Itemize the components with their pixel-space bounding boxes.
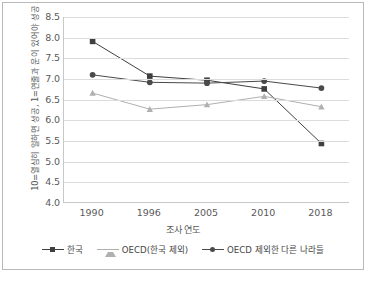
series-line: [93, 41, 322, 143]
y-tick-label: 4.5: [30, 176, 60, 187]
legend-marker-icon: [97, 245, 119, 254]
gridline: [64, 162, 349, 163]
gridline: [64, 120, 349, 121]
legend-marker-icon: [202, 245, 224, 254]
y-tick-label: 6.5: [30, 94, 60, 105]
y-tick-label: 8.0: [30, 32, 60, 43]
y-axis-ticks: 8.58.07.57.06.56.05.55.04.54.0: [28, 17, 60, 203]
series-layer: [64, 17, 350, 203]
y-tick-label: 7.5: [30, 52, 60, 63]
gridline: [64, 38, 349, 39]
data-point-marker: [89, 90, 95, 96]
y-tick-label: 6.0: [30, 114, 60, 125]
data-point-marker: [319, 85, 325, 91]
gridline: [64, 17, 349, 18]
gridline: [64, 79, 349, 80]
y-tick-label: 5.0: [30, 156, 60, 167]
legend-marker-icon: [42, 245, 64, 254]
legend-label: 한국: [67, 243, 83, 255]
x-tick-label: 1990: [62, 207, 122, 218]
data-point-marker: [204, 80, 210, 86]
data-point-marker: [90, 72, 96, 78]
y-tick-label: 8.5: [30, 11, 60, 22]
gridline: [64, 58, 349, 59]
y-tick-label: 4.0: [30, 197, 60, 208]
plot-area: [63, 17, 349, 203]
y-tick-label: 5.5: [30, 135, 60, 146]
legend-item[interactable]: OECD 제외한 다른 나라들: [202, 243, 324, 255]
chart-figure: 10=열심히 일하면 성공, 1=연줄과 운이 있어야 성공 8.58.07.5…: [0, 0, 366, 283]
gridline: [64, 141, 349, 142]
x-tick-label: 2005: [176, 207, 236, 218]
data-point-marker: [90, 39, 96, 45]
gridline: [64, 182, 349, 183]
x-tick-label: 2018: [290, 207, 350, 218]
x-axis-title: 조사 연도: [0, 222, 366, 236]
data-point-marker: [261, 86, 267, 92]
legend-label: OECD 제외한 다른 나라들: [227, 243, 324, 255]
data-point-marker: [147, 79, 153, 85]
y-tick-label: 7.0: [30, 73, 60, 84]
data-point-marker: [261, 93, 267, 99]
gridline: [64, 100, 349, 101]
legend-item[interactable]: OECD(한국 제외): [97, 243, 188, 255]
x-tick-label: 2010: [233, 207, 293, 218]
legend-item[interactable]: 한국: [42, 243, 83, 255]
x-tick-label: 1996: [119, 207, 179, 218]
legend-label: OECD(한국 제외): [122, 243, 188, 255]
chart-legend: 한국OECD(한국 제외)OECD 제외한 다른 나라들: [0, 243, 366, 255]
